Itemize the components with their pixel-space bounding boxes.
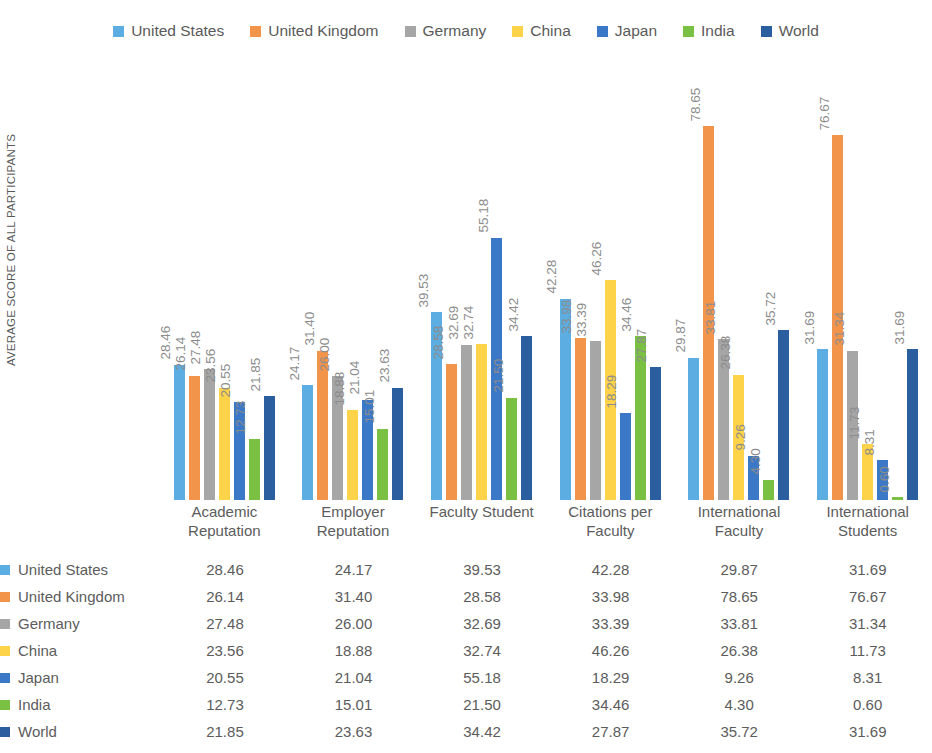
bar[interactable] — [219, 388, 230, 500]
bar[interactable] — [249, 439, 260, 500]
table-cell-value: 28.58 — [418, 583, 547, 610]
bar-group: 24.1731.4026.0018.8821.0415.0123.63 — [289, 50, 418, 500]
bar[interactable] — [778, 330, 789, 500]
table-row: Germany27.4826.0032.6933.3933.8131.34 — [0, 610, 932, 637]
bar[interactable] — [506, 398, 517, 500]
table-cell-value: 20.55 — [161, 664, 290, 691]
bar-value-label: 31.40 — [302, 312, 316, 346]
table-cell-value: 27.48 — [161, 610, 290, 637]
bar-slot: 12.73 — [249, 50, 260, 500]
bar-value-label: 39.53 — [416, 273, 430, 307]
legend-item[interactable]: World — [761, 23, 819, 39]
bar-slot: 0.60 — [892, 50, 903, 500]
legend-item[interactable]: United States — [113, 23, 224, 39]
bar[interactable] — [590, 341, 601, 500]
legend-item-label: United States — [131, 23, 224, 39]
bar[interactable] — [446, 364, 457, 500]
table-cell-value: 26.38 — [675, 637, 804, 664]
bar-chart-plot-area: 28.4626.1427.4823.5620.5512.7321.8524.17… — [160, 50, 932, 500]
bar-value-label: 46.26 — [590, 241, 604, 275]
bar-value-label: 24.17 — [287, 346, 301, 380]
bar[interactable] — [392, 388, 403, 500]
bar[interactable] — [763, 480, 774, 500]
table-cell-value: 31.40 — [289, 583, 418, 610]
table-cell-value: 28.46 — [161, 556, 290, 583]
bar-slot: 18.29 — [620, 50, 631, 500]
bar-slot: 31.40 — [317, 50, 328, 500]
bar[interactable] — [892, 497, 903, 500]
table-cell-value: 34.46 — [546, 691, 675, 718]
bar-value-label: 18.29 — [605, 374, 619, 408]
bar-value-label: 55.18 — [476, 199, 490, 233]
table-cell-value: 46.26 — [546, 637, 675, 664]
category-label-line: Employer — [283, 503, 424, 522]
bar-value-label: 18.88 — [332, 371, 346, 405]
bar-slot: 9.26 — [748, 50, 759, 500]
bar-value-label: 21.85 — [249, 357, 263, 391]
bar[interactable] — [461, 345, 472, 500]
table-cell-value: 9.26 — [675, 664, 804, 691]
category-label-line: Faculty — [540, 522, 681, 541]
table-cell-value: 18.29 — [546, 664, 675, 691]
legend-item[interactable]: United Kingdom — [250, 23, 378, 39]
bar-value-label: 11.73 — [847, 406, 861, 439]
bar[interactable] — [907, 349, 918, 500]
bar-slot: 33.81 — [718, 50, 729, 500]
table-cell-value: 21.04 — [289, 664, 418, 691]
legend-swatch-icon — [597, 26, 608, 37]
legend-item-label: United Kingdom — [268, 23, 378, 39]
bar-slot: 42.28 — [560, 50, 571, 500]
table-cell-value: 11.73 — [803, 637, 932, 664]
series-name-label: World — [18, 723, 57, 740]
x-axis-category-label: Citations perFaculty — [540, 503, 681, 541]
bar[interactable] — [620, 413, 631, 500]
bar-slot: 24.17 — [302, 50, 313, 500]
table-row-series-name-cell: Germany — [0, 610, 161, 637]
bar-value-label: 23.63 — [377, 349, 391, 383]
bar-slot: 39.53 — [431, 50, 442, 500]
series-swatch-icon — [0, 565, 10, 575]
chart-data-table-body: United States28.4624.1739.5342.2829.8731… — [0, 556, 932, 745]
table-cell-value: 34.42 — [418, 718, 547, 745]
x-axis-category-label: AcademicReputation — [154, 503, 295, 541]
bar[interactable] — [377, 429, 388, 500]
bar[interactable] — [347, 410, 358, 500]
legend-item[interactable]: Japan — [597, 23, 657, 39]
series-name-label: China — [18, 642, 57, 659]
legend-item[interactable]: Germany — [405, 23, 487, 39]
bar-value-label: 31.69 — [892, 311, 906, 345]
bar[interactable] — [476, 344, 487, 500]
bar[interactable] — [264, 396, 275, 500]
series-name-label: Germany — [18, 615, 80, 632]
series-swatch-icon — [0, 673, 10, 683]
bar-value-label: 78.65 — [688, 87, 702, 121]
legend-item[interactable]: India — [683, 23, 735, 39]
x-axis-category-labels: AcademicReputationEmployerReputationFacu… — [160, 503, 932, 553]
bar[interactable] — [575, 338, 586, 500]
legend-swatch-icon — [113, 26, 124, 37]
bar-value-label: 42.28 — [545, 260, 559, 294]
bar-slot: 15.01 — [377, 50, 388, 500]
category-label-line: Academic — [154, 503, 295, 522]
bar-value-label: 20.55 — [219, 363, 233, 397]
legend-item-label: China — [530, 23, 571, 39]
bar[interactable] — [817, 349, 828, 500]
bar-value-label: 31.34 — [832, 312, 846, 346]
bar[interactable] — [189, 376, 200, 500]
bar[interactable] — [317, 351, 328, 500]
legend-item[interactable]: China — [512, 23, 571, 39]
bar[interactable] — [204, 369, 215, 500]
bar[interactable] — [302, 385, 313, 500]
series-swatch-icon — [0, 619, 10, 629]
bar-value-label: 35.72 — [763, 291, 777, 325]
bar-value-label: 31.69 — [802, 311, 816, 345]
legend-swatch-icon — [405, 26, 416, 37]
bar-slot: 34.42 — [521, 50, 532, 500]
bar[interactable] — [650, 367, 661, 500]
bar[interactable] — [174, 365, 185, 500]
bar[interactable] — [521, 336, 532, 500]
bar[interactable] — [688, 358, 699, 500]
bar-value-label: 0.60 — [877, 466, 891, 492]
bar-value-label: 33.39 — [575, 302, 589, 336]
bar-value-label: 33.81 — [703, 300, 717, 334]
